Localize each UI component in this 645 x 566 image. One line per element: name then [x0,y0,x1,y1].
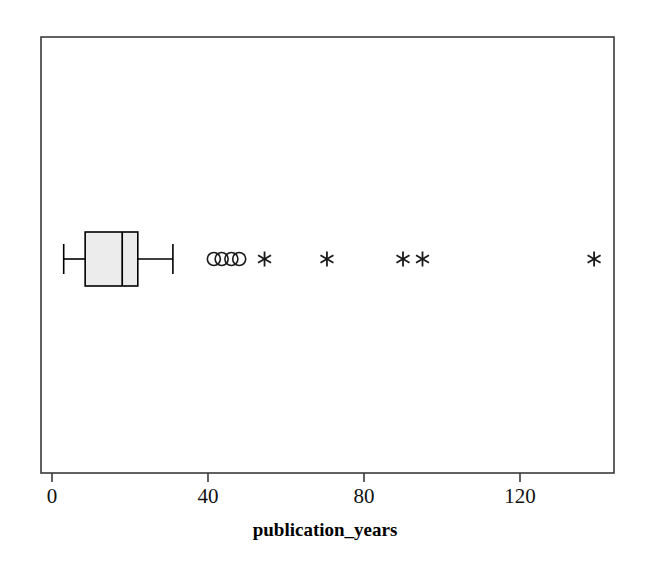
x-tick-label-40: 40 [198,484,219,508]
boxplot-figure: 0 40 80 120 publication_years [0,0,645,566]
x-tick-label-120: 120 [504,484,536,508]
box-iqr [85,232,138,286]
x-tick-label-0: 0 [47,484,58,508]
x-axis-title: publication_years [253,519,398,540]
x-tick-label-80: 80 [354,484,375,508]
